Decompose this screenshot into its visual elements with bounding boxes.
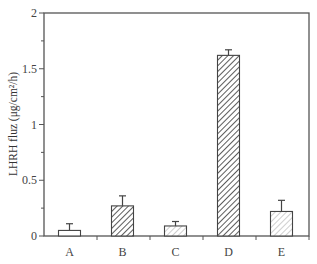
y-tick-label: 1.5 [22,62,37,76]
bar-rect [59,230,81,236]
bar-rect [271,211,293,236]
bar-chart: 00.511.52 ABCDE LHRH fluz (μg/cm²/h) [0,0,317,264]
y-tick-label: 2 [31,6,37,20]
x-axis: ABCDE [65,236,309,259]
x-category-label: D [224,245,233,259]
y-tick-label: 1 [31,118,37,132]
bar-E [271,200,293,236]
bar-D [218,50,240,236]
bar-rect [165,226,187,236]
x-category-label: C [171,245,179,259]
y-tick-label: 0 [31,229,37,243]
bars [59,50,293,236]
bar-B [112,196,134,236]
bar-A [59,224,81,236]
plot-frame [44,13,309,236]
y-axis-title: LHRH fluz (μg/cm²/h) [7,72,20,176]
x-category-label: E [278,245,285,259]
x-category-label: B [118,245,126,259]
bar-rect [218,55,240,236]
bar-C [165,222,187,236]
y-tick-label: 0.5 [22,173,37,187]
bar-rect [112,206,134,236]
x-category-label: A [65,245,74,259]
y-axis: 00.511.52 [22,6,44,243]
